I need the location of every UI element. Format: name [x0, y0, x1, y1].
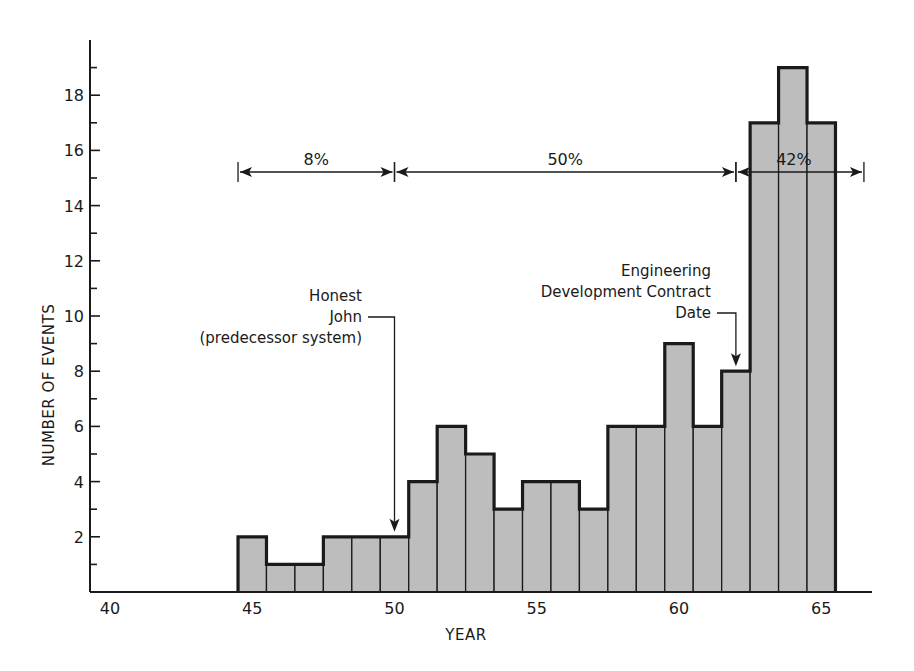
bar-58 — [608, 426, 636, 592]
x-tick-label: 65 — [811, 599, 831, 618]
bar-46 — [266, 564, 294, 592]
y-tick-label: 18 — [64, 86, 84, 105]
honest-john-label-line: Honest — [309, 287, 362, 305]
span-label-8pct: 8% — [304, 150, 329, 169]
bar-63 — [750, 123, 778, 592]
y-tick-label: 12 — [64, 252, 84, 271]
y-tick-label: 16 — [64, 141, 84, 160]
x-tick-label: 45 — [242, 599, 262, 618]
honest-john-label-line: John — [328, 308, 362, 326]
bar-65 — [807, 123, 835, 592]
bar-49 — [352, 537, 380, 592]
x-tick-label: 60 — [669, 599, 689, 618]
bar-48 — [323, 537, 351, 592]
bar-51 — [409, 482, 437, 592]
histogram-chart: 24681012141618404550556065 8%50%42% Hone… — [0, 0, 914, 671]
bar-55 — [523, 482, 551, 592]
y-tick-label: 2 — [74, 528, 84, 547]
x-axis-title: YEAR — [444, 626, 486, 644]
bar-54 — [494, 509, 522, 592]
x-tick-label: 50 — [384, 599, 404, 618]
span-label-42pct: 42% — [776, 150, 812, 169]
span-label-50pct: 50% — [547, 150, 583, 169]
bar-45 — [238, 537, 266, 592]
bar-62 — [722, 371, 750, 592]
bar-53 — [466, 454, 494, 592]
y-axis-title: NUMBER OF EVENTS — [40, 304, 58, 466]
x-tick-label: 55 — [527, 599, 547, 618]
y-tick-label: 6 — [74, 417, 84, 436]
bar-47 — [295, 564, 323, 592]
engineering-contract-label-line: Date — [675, 304, 711, 322]
y-tick-label: 4 — [74, 473, 84, 492]
bar-64 — [779, 68, 807, 592]
bar-61 — [693, 426, 721, 592]
bar-52 — [437, 426, 465, 592]
bar-60 — [665, 344, 693, 592]
x-tick-label: 40 — [100, 599, 120, 618]
engineering-contract-label-line: Engineering — [621, 262, 711, 280]
engineering-contract-label-line: Development Contract — [541, 283, 711, 301]
bar-50 — [380, 537, 408, 592]
bar-59 — [636, 426, 664, 592]
honest-john-leader-line — [368, 317, 395, 522]
y-tick-label: 10 — [64, 307, 84, 326]
bar-57 — [579, 509, 607, 592]
bar-56 — [551, 482, 579, 592]
y-tick-label: 8 — [74, 362, 84, 381]
engineering-contract-leader-line — [717, 313, 736, 356]
honest-john-label-line: (predecessor system) — [200, 329, 363, 347]
y-tick-label: 14 — [64, 197, 84, 216]
